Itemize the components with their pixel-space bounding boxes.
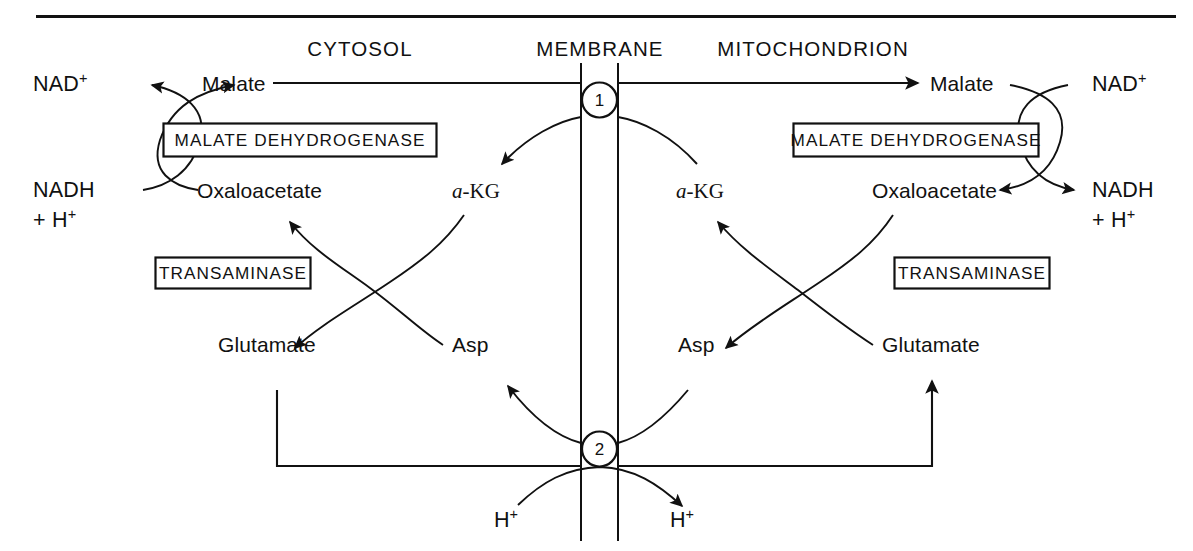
asp-node2-to-cytosol-arc bbox=[508, 386, 581, 443]
mito-nadh-proton-label: + H+ bbox=[1092, 206, 1135, 232]
cyt-oxaloacetate-label: Oxaloacetate bbox=[197, 179, 322, 202]
header-cytosol: CYTOSOL bbox=[307, 37, 412, 60]
header-mitochondrion: MITOCHONDRION bbox=[717, 37, 909, 60]
cyt-nadh-label: NADH bbox=[33, 178, 95, 202]
mito-asp-label: Asp bbox=[678, 333, 715, 356]
cyt-asp-label: Asp bbox=[452, 333, 489, 356]
mito-proton-label: H+ bbox=[670, 506, 694, 532]
mito-nad-label: NAD+ bbox=[1092, 70, 1147, 96]
mito-glutamate-label: Glutamate bbox=[882, 333, 980, 356]
cyt-proton-label: H+ bbox=[494, 506, 518, 532]
mito-malate-label: Malate bbox=[930, 72, 994, 95]
header-membrane: MEMBRANE bbox=[536, 37, 663, 60]
mito-oxaloacetate-label: Oxaloacetate bbox=[872, 179, 997, 202]
mito-oxaloacetate-to-asp-arrow bbox=[726, 215, 893, 348]
transporter-node-1-label: 1 bbox=[595, 91, 604, 110]
cyt-nad-label: NAD+ bbox=[33, 70, 88, 96]
transporter-node-2-label: 2 bbox=[595, 440, 604, 459]
enzyme-label-malate-dehydrogenase-mito: MALATE DEHYDROGENASE bbox=[791, 130, 1042, 150]
glutamate-cytosol-return-path bbox=[277, 390, 581, 466]
proton-transport-arc bbox=[518, 467, 682, 506]
cyt-malate-label: Malate bbox=[202, 72, 266, 95]
malate-aspartate-shuttle-figure: NAD+ : sweeps up-left --> Malate : sweep… bbox=[0, 0, 1193, 551]
cyt-nadh-proton-label: + H+ bbox=[33, 206, 76, 232]
cyt-asp-to-oxaloacetate-arrow bbox=[290, 222, 443, 345]
cyt-glutamate-label: Glutamate bbox=[218, 333, 316, 356]
enzyme-label-transaminase-mito: TRANSAMINASE bbox=[898, 263, 1046, 283]
enzyme-label-transaminase-cytosol: TRANSAMINASE bbox=[159, 263, 307, 283]
enzyme-label-malate-dehydrogenase-cytosol: MALATE DEHYDROGENASE bbox=[175, 130, 426, 150]
akg-efflux-to-cytosol-arc bbox=[502, 117, 581, 164]
mito-glutamate-to-akg-arrow bbox=[718, 222, 873, 345]
mito-akg-label: a-KG bbox=[676, 179, 724, 203]
asp-mito-to-node2-arc bbox=[618, 390, 688, 443]
akg-influx-from-mito-arc bbox=[618, 117, 697, 164]
cyt-akg-to-glutamate-arrow bbox=[295, 215, 464, 348]
glutamate-mito-return-path bbox=[618, 381, 932, 466]
cyt-akg-label: a-KG bbox=[452, 179, 500, 203]
shuttle-diagram-canvas: NAD+ : sweeps up-left --> Malate : sweep… bbox=[0, 0, 1193, 551]
mito-nadh-label: NADH bbox=[1092, 178, 1154, 202]
